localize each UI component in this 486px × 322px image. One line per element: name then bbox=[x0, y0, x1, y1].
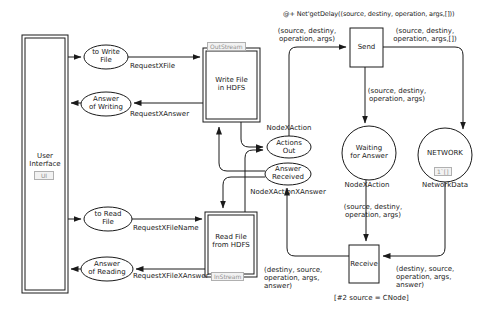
answer-of-writing-label: Answer of Writing bbox=[80, 95, 132, 111]
arc-network-receive bbox=[383, 182, 445, 256]
waiting-type-label: NodeXAction bbox=[339, 181, 395, 189]
answer-of-reading-label: Answer of Reading bbox=[80, 260, 134, 276]
answer-received-label: Answer Received bbox=[264, 165, 312, 181]
answer-received-type-label: NodeXActionXAnswer bbox=[250, 188, 326, 196]
waiting-for-answer-label: Waiting for Answer bbox=[341, 144, 397, 160]
arc-label-waiting-receive: (source, destiny, operation, args) bbox=[340, 203, 406, 219]
petri-net-diagram: User Interface UI to Write File Answer o… bbox=[0, 0, 486, 322]
arc-label-actionsout-send: (source, destiny, operation, args) bbox=[275, 27, 339, 43]
network-label: NETWORK bbox=[417, 149, 473, 157]
read-file-label: Read File from HDFS bbox=[205, 233, 257, 249]
to-read-file-label: to Read File bbox=[84, 210, 132, 226]
write-file-port-tag: OutStream bbox=[207, 42, 246, 51]
arc-label-network-receive: (destiny, source, operation, args, answe… bbox=[396, 265, 454, 289]
actions-out-type-label: NodeXAction bbox=[255, 124, 323, 132]
arc-label-request-x-file-x-answer: RequestXFileXAnswer bbox=[133, 272, 209, 280]
arc-label-receive-answerreceived: (destiny, source, operation, args, answe… bbox=[264, 266, 322, 290]
read-file-port-tag: InStream bbox=[211, 272, 244, 281]
network-type-label: NetworkData bbox=[417, 181, 473, 189]
arc-label-request-x-answer: RequestXAnswer bbox=[130, 110, 189, 118]
write-file-label: Write File in HDFS bbox=[203, 76, 260, 92]
user-interface-subpage-tag: UI bbox=[34, 171, 54, 180]
to-write-file-label: to Write File bbox=[84, 48, 128, 64]
arcs bbox=[68, 47, 463, 269]
arc-label-request-x-file-name: RequestXFileName bbox=[133, 224, 199, 232]
user-interface-label: User Interface bbox=[22, 152, 68, 168]
arc-label-send-network: (source, destiny, operation, args,[]) bbox=[391, 27, 459, 43]
receive-guard: [#2 source = CNode] bbox=[334, 294, 409, 302]
time-delay-annotation: @+ Net'getDelay((source, destiny, operat… bbox=[283, 10, 454, 18]
arc-label-request-x-file: RequestXFile bbox=[130, 62, 175, 70]
arc-label-send-waiting: (source, destiny, operation, args) bbox=[366, 87, 428, 103]
arc-actionsout-send bbox=[289, 47, 346, 136]
arc-answerreceived-writebox bbox=[219, 127, 265, 171]
arc-receive-answerreceived bbox=[287, 188, 349, 256]
send-label: Send bbox=[350, 43, 383, 51]
arc-readbox-actionsout bbox=[245, 150, 263, 212]
actions-out-label: Actions Out bbox=[267, 139, 311, 155]
receive-label: Receive bbox=[349, 260, 379, 268]
network-marking-tag: 1`[] bbox=[434, 167, 452, 176]
